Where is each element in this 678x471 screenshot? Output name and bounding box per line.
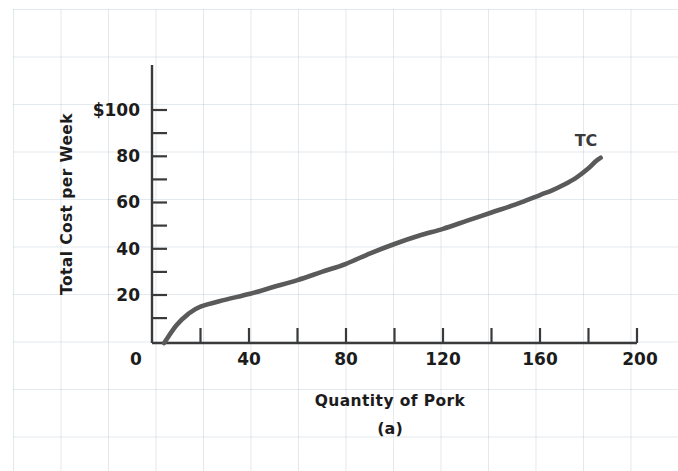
y-tick-label-40: 40	[116, 239, 140, 259]
total-cost-chart: $100 80 60 40 20 0 40 80 120 160 200 TC …	[0, 0, 678, 471]
x-axis-title: Quantity of Pork	[315, 392, 466, 410]
y-axis-title: Total Cost per Week	[58, 113, 76, 295]
x-tick-label-80: 80	[334, 349, 358, 369]
x-tick-label-120: 120	[425, 349, 461, 369]
y-tick-label-80: 80	[116, 146, 140, 166]
panel-label: (a)	[377, 419, 402, 438]
y-tick-label-60: 60	[116, 192, 140, 212]
figure-page: $100 80 60 40 20 0 40 80 120 160 200 TC …	[0, 0, 678, 471]
x-tick-label-160: 160	[522, 349, 558, 369]
x-tick-label-200: 200	[622, 349, 658, 369]
y-tick-label-20: 20	[116, 285, 140, 305]
tc-curve-label: TC	[575, 131, 598, 150]
tc-cost-curve	[164, 158, 601, 343]
x-tick-label-0: 0	[130, 349, 142, 369]
y-axis-ticks	[152, 110, 167, 318]
y-tick-label-100: $100	[93, 100, 140, 120]
x-tick-label-40: 40	[237, 349, 261, 369]
x-axis-ticks	[201, 328, 638, 343]
